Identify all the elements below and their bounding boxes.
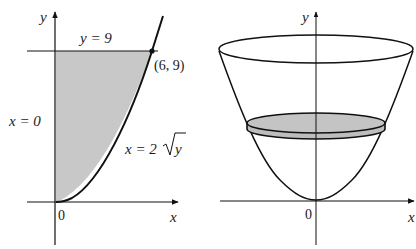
- right-y-axis-label: y: [300, 9, 309, 25]
- left-y-axis-label: y: [38, 9, 47, 25]
- label-x-equals-2-sqrt-y: x = 2 y: [124, 133, 186, 157]
- figure: y x 0 y = 9 (6, 9) x = 0 x = 2 y y 0 x: [0, 0, 416, 249]
- right-origin-label: 0: [305, 207, 312, 222]
- right-panel: y 0 x: [219, 9, 415, 245]
- right-x-axis-label: x: [407, 209, 415, 225]
- svg-text:x = 2: x = 2: [124, 141, 157, 157]
- label-point-6-9: (6, 9): [154, 58, 185, 74]
- label-y-equals-9: y = 9: [78, 30, 112, 46]
- left-origin-label: 0: [58, 208, 65, 223]
- label-x-equals-0: x = 0: [8, 113, 41, 129]
- intersection-point: [149, 48, 154, 53]
- left-panel: y x 0 y = 9 (6, 9) x = 0 x = 2 y: [8, 9, 186, 245]
- shaded-region: [56, 51, 152, 202]
- left-x-axis-label: x: [169, 209, 177, 225]
- svg-text:y: y: [173, 141, 182, 157]
